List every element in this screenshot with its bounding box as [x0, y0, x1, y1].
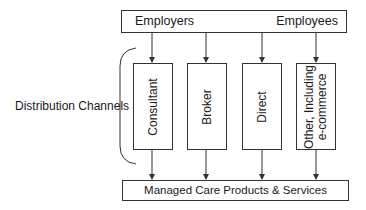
channel-other: Other, Including e-commerce [296, 63, 336, 150]
channel-label: Broker [201, 89, 214, 124]
channel-broker: Broker [187, 63, 227, 150]
managed-care-label: Managed Care Products & Services [123, 184, 348, 196]
employers-employees-box: Employers Employees [121, 10, 347, 33]
distribution-channels-label: Distribution Channels [15, 99, 129, 113]
channel-direct: Direct [242, 63, 282, 150]
channel-label: Consultant [147, 78, 160, 135]
employees-label: Employees [276, 14, 338, 28]
channel-label: Direct [256, 91, 269, 122]
channel-label-line2: e-commerce [315, 73, 329, 140]
channel-consultant: Consultant [133, 63, 173, 150]
managed-care-box: Managed Care Products & Services [122, 180, 349, 201]
channel-label-line1: Other, Including [302, 64, 316, 148]
channel-label: Other, Including e-commerce [303, 64, 329, 148]
employers-label: Employers [135, 14, 194, 28]
